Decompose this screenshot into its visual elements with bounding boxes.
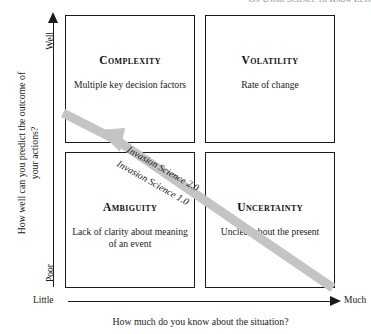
y-axis-title: How well can you predict the outcome of … [15, 28, 41, 278]
quadrant-uncertainty: Uncertainty Unclear about the present [205, 152, 335, 288]
quadrant-uncertainty-title: Uncertainty [206, 201, 334, 213]
y-axis-arrowhead-icon [48, 12, 58, 23]
x-axis-line [68, 301, 333, 302]
y-axis-title-line1: How well can you predict the outcome of [15, 28, 28, 278]
quadrant-uncertainty-description: Unclear about the present [212, 226, 328, 238]
quadrant-complexity: Complexity Multiple key decision factors [65, 15, 195, 143]
vuca-quadrant-figure: On Using Science to Know Less Well Poor … [0, 0, 371, 334]
quadrant-volatility-description: Rate of change [212, 79, 328, 91]
x-axis-arrowhead-icon [330, 296, 341, 306]
quadrant-volatility: Volatility Rate of change [205, 15, 335, 143]
quadrant-ambiguity-title: Ambiguity [66, 201, 194, 213]
y-axis-high-label: Well [45, 32, 55, 84]
quadrant-ambiguity-description: Lack of clarity about meaning of an even… [72, 226, 188, 249]
y-axis-low-label: Poor [45, 264, 55, 316]
x-axis-title: How much do you know about the situation… [68, 316, 333, 327]
y-axis-title-line2: your actions? [28, 28, 41, 278]
quadrant-complexity-title: Complexity [66, 54, 194, 66]
running-head: On Using Science to Know Less [196, 0, 371, 2]
quadrant-volatility-title: Volatility [206, 54, 334, 66]
x-axis-high-label: Much [344, 295, 366, 305]
x-axis-low-label: Little [33, 295, 54, 305]
quadrant-complexity-description: Multiple key decision factors [72, 79, 188, 91]
